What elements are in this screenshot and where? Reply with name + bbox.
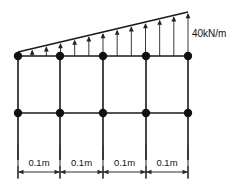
load-arrow-head-8 bbox=[129, 26, 134, 31]
load-arrow-head-6 bbox=[101, 33, 106, 38]
dimension-arrow-left-3 bbox=[103, 170, 109, 174]
dimension-arrow-left-2 bbox=[60, 170, 66, 174]
joint-level2-col5 bbox=[184, 109, 192, 117]
diagram-canvas: 40kN/m 0.1m0.1m0.1m0.1m bbox=[0, 0, 240, 193]
joint-level1-col1 bbox=[14, 52, 22, 60]
joint-level2-col1 bbox=[14, 109, 22, 117]
load-arrow-head-4 bbox=[72, 40, 77, 45]
joint-level1-col2 bbox=[56, 52, 64, 60]
dimension-arrow-right-2 bbox=[98, 170, 104, 174]
joint-level1-col5 bbox=[184, 52, 192, 60]
load-arrow-head-9 bbox=[143, 23, 148, 28]
joint-level2-col2 bbox=[56, 109, 64, 117]
dimension-arrow-right-1 bbox=[55, 170, 61, 174]
dimension-label-3: 0.1m bbox=[114, 157, 135, 168]
dimension-label-1: 0.1m bbox=[28, 157, 49, 168]
load-arrow-head-3 bbox=[58, 43, 63, 48]
frame-members-group bbox=[18, 56, 188, 160]
load-arrow-head-11 bbox=[171, 16, 176, 21]
dimension-arrow-left-4 bbox=[146, 170, 152, 174]
load-arrow-head-1 bbox=[30, 50, 35, 55]
dimension-arrow-right-4 bbox=[183, 170, 189, 174]
load-arrow-head-10 bbox=[157, 20, 162, 25]
load-arrow-head-5 bbox=[86, 36, 91, 41]
joint-level1-col4 bbox=[142, 52, 150, 60]
load-arrow-head-7 bbox=[115, 30, 120, 35]
dimension-label-4: 0.1m bbox=[156, 157, 177, 168]
load-arrow-group bbox=[30, 13, 191, 56]
joint-level2-col3 bbox=[99, 109, 107, 117]
dimension-arrow-left-1 bbox=[18, 170, 24, 174]
load-arrow-head-2 bbox=[44, 46, 49, 51]
joint-level2-col4 bbox=[142, 109, 150, 117]
load-magnitude-label: 40kN/m bbox=[192, 28, 226, 39]
load-arrow-head-12 bbox=[186, 13, 191, 18]
structural-frame-diagram: 40kN/m 0.1m0.1m0.1m0.1m bbox=[0, 0, 240, 193]
joint-level1-col3 bbox=[99, 52, 107, 60]
dimension-arrow-right-3 bbox=[141, 170, 147, 174]
dimension-label-2: 0.1m bbox=[71, 157, 92, 168]
